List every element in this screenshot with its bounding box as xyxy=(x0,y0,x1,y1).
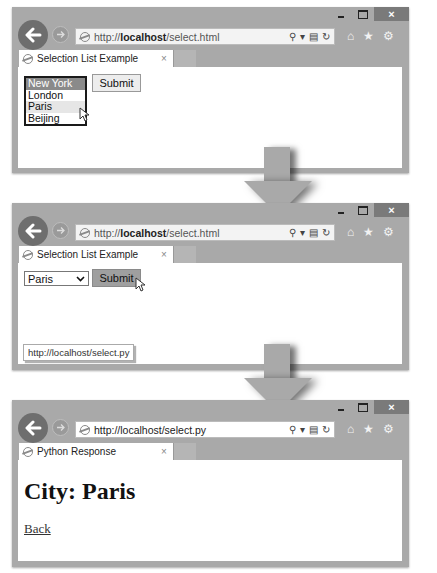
refresh-icon[interactable]: ↻ xyxy=(322,31,330,42)
settings-gear-icon[interactable]: ⚙ xyxy=(383,422,394,436)
maximize-button[interactable] xyxy=(352,400,374,414)
forward-button[interactable] xyxy=(52,222,69,239)
mouse-pointer-icon xyxy=(79,107,89,122)
city-dropdown[interactable]: Paris xyxy=(24,271,89,286)
chevron-down-icon xyxy=(76,276,85,282)
dropdown-value: Paris xyxy=(28,273,53,285)
search-icon[interactable]: ⚲ xyxy=(289,31,296,42)
page-content: Paris Submit http://localhost/select.py xyxy=(18,263,402,364)
maximize-icon xyxy=(358,10,368,19)
ie-tab-icon xyxy=(23,447,33,457)
tab-close-icon[interactable]: × xyxy=(155,249,173,260)
home-icon[interactable]: ⌂ xyxy=(347,225,354,239)
submit-button[interactable]: Submit xyxy=(92,269,141,287)
ie-tab-icon xyxy=(23,250,33,260)
search-dropdown-icon[interactable]: ▾ xyxy=(300,424,305,435)
tab-close-icon[interactable]: × xyxy=(155,446,173,457)
close-window-button[interactable]: × xyxy=(374,203,409,217)
minimize-icon xyxy=(338,212,344,214)
new-tab-button[interactable] xyxy=(173,50,196,67)
new-tab-button[interactable] xyxy=(173,443,196,460)
ie-page-icon xyxy=(80,228,90,238)
compatibility-view-icon[interactable]: ▤ xyxy=(309,31,318,42)
search-icon[interactable]: ⚲ xyxy=(289,227,296,238)
page-content: New York London Paris Beijing Submit xyxy=(18,67,402,168)
address-url: http://localhost/select.py xyxy=(94,424,289,436)
status-bar-url: http://localhost/select.py xyxy=(23,344,134,361)
address-bar[interactable]: http://localhost/select.html ⚲ ▾ ▤ ↻ xyxy=(75,28,335,45)
address-url: http://localhost/select.html xyxy=(94,227,289,239)
minimize-icon xyxy=(338,409,344,411)
back-button[interactable] xyxy=(18,20,48,50)
mouse-pointer-icon xyxy=(135,277,145,292)
back-arrow-icon xyxy=(24,223,42,239)
compatibility-view-icon[interactable]: ▤ xyxy=(309,227,318,238)
tab-close-icon[interactable]: × xyxy=(155,53,173,64)
refresh-icon[interactable]: ↻ xyxy=(322,424,330,435)
minimize-button[interactable] xyxy=(330,400,352,414)
back-button[interactable] xyxy=(18,216,48,246)
compatibility-view-icon[interactable]: ▤ xyxy=(309,424,318,435)
forward-arrow-icon xyxy=(56,226,66,235)
forward-button[interactable] xyxy=(52,419,69,436)
forward-arrow-icon xyxy=(56,30,66,39)
ie-page-icon xyxy=(80,425,90,435)
browser-window-3: × http://localhost/select.py ⚲ ▾ ▤ ↻ ⌂ ★… xyxy=(12,400,409,567)
maximize-button[interactable] xyxy=(352,203,374,217)
page-heading: City: Paris xyxy=(24,478,135,505)
address-bar[interactable]: http://localhost/select.py ⚲ ▾ ▤ ↻ xyxy=(75,421,335,438)
tab-python-response[interactable]: Python Response × xyxy=(19,443,173,460)
home-icon[interactable]: ⌂ xyxy=(347,422,354,436)
close-window-button[interactable]: × xyxy=(374,7,409,21)
maximize-button[interactable] xyxy=(352,7,374,21)
address-bar[interactable]: http://localhost/select.html ⚲ ▾ ▤ ↻ xyxy=(75,224,335,241)
back-button[interactable] xyxy=(18,413,48,443)
listbox-option-beijing[interactable]: Beijing xyxy=(26,113,85,125)
minimize-button[interactable] xyxy=(330,7,352,21)
close-window-button[interactable]: × xyxy=(374,400,409,414)
search-dropdown-icon[interactable]: ▾ xyxy=(300,227,305,238)
minimize-icon xyxy=(338,16,344,18)
browser-window-1: × http://localhost/select.html ⚲ ▾ ▤ ↻ ⌂… xyxy=(12,7,409,173)
window-caption-buttons: × xyxy=(330,7,409,21)
back-arrow-icon xyxy=(24,420,42,436)
submit-button[interactable]: Submit xyxy=(92,74,141,92)
tab-title: Python Response xyxy=(37,446,155,457)
favorites-star-icon[interactable]: ★ xyxy=(363,422,374,436)
listbox-option-paris[interactable]: Paris xyxy=(26,101,85,113)
listbox-option-new-york[interactable]: New York xyxy=(26,78,85,90)
back-arrow-icon xyxy=(24,27,42,43)
favorites-star-icon[interactable]: ★ xyxy=(363,29,374,43)
ie-tab-icon xyxy=(23,54,33,64)
new-tab-button[interactable] xyxy=(173,246,196,263)
browser-window-2: × http://localhost/select.html ⚲ ▾ ▤ ↻ ⌂… xyxy=(12,203,409,370)
ie-page-icon xyxy=(80,32,90,42)
forward-button[interactable] xyxy=(52,26,69,43)
window-caption-buttons: × xyxy=(330,203,409,217)
page-content: City: Paris Back xyxy=(18,460,402,561)
settings-gear-icon[interactable]: ⚙ xyxy=(383,29,394,43)
home-icon[interactable]: ⌂ xyxy=(347,29,354,43)
maximize-icon xyxy=(358,403,368,412)
address-url: http://localhost/select.html xyxy=(94,31,289,43)
minimize-button[interactable] xyxy=(330,203,352,217)
tab-selection-list-example[interactable]: Selection List Example × xyxy=(19,246,173,263)
tab-selection-list-example[interactable]: Selection List Example × xyxy=(19,50,173,67)
city-listbox[interactable]: New York London Paris Beijing xyxy=(24,76,87,126)
forward-arrow-icon xyxy=(56,423,66,432)
refresh-icon[interactable]: ↻ xyxy=(322,227,330,238)
window-caption-buttons: × xyxy=(330,400,409,414)
settings-gear-icon[interactable]: ⚙ xyxy=(383,225,394,239)
tab-title: Selection List Example xyxy=(37,249,155,260)
back-link[interactable]: Back xyxy=(24,521,51,537)
search-icon[interactable]: ⚲ xyxy=(289,424,296,435)
tab-title: Selection List Example xyxy=(37,53,155,64)
favorites-star-icon[interactable]: ★ xyxy=(363,225,374,239)
search-dropdown-icon[interactable]: ▾ xyxy=(300,31,305,42)
maximize-icon xyxy=(358,206,368,215)
